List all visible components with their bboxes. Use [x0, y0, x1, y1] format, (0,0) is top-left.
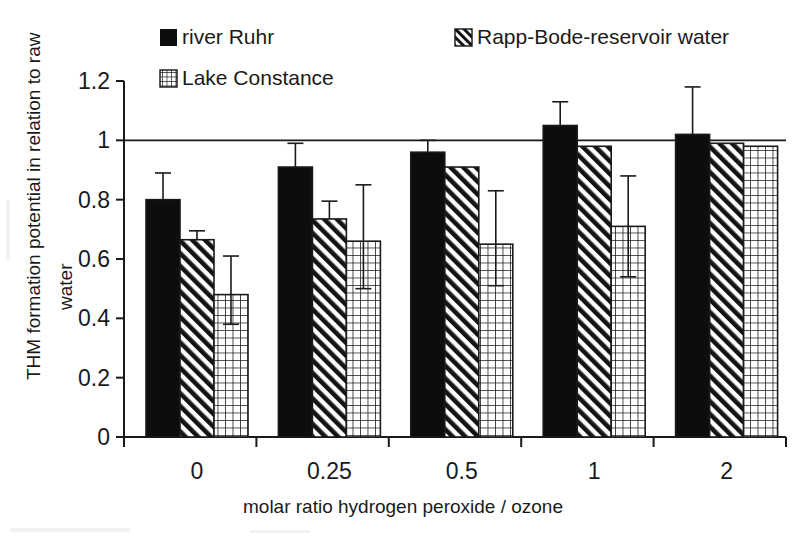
- x-tick-label: 0: [191, 458, 204, 484]
- x-tick-label: 1: [588, 458, 601, 484]
- diagonal-hatch-swatch: [455, 29, 472, 46]
- y-tick-label: 0.2: [78, 365, 110, 391]
- bar-solid-black: [543, 126, 577, 438]
- legend-entry-rapp-bode: Rapp-Bode-reservoir water: [455, 25, 729, 48]
- cross-grid-swatch: [160, 70, 177, 87]
- y-tick-label: 0: [97, 424, 110, 450]
- bar-diagonal-hatch: [180, 240, 214, 437]
- y-axis-title-wrap: water: [55, 263, 76, 311]
- chart-figure: river Ruhr Rapp-Bode-reservoir water Lak…: [0, 0, 806, 543]
- x-tick-label: 2: [720, 458, 733, 484]
- bar-solid-black: [278, 167, 312, 437]
- bar-diagonal-hatch: [577, 146, 611, 437]
- y-tick-label: 0.4: [78, 305, 110, 331]
- bar-cross-grid: [744, 146, 778, 437]
- bar-solid-black: [411, 152, 445, 437]
- bar-diagonal-hatch: [710, 143, 744, 437]
- y-tick-label: 0.8: [78, 187, 110, 213]
- bar-solid-black: [676, 134, 710, 437]
- legend-label-rapp-bode: Rapp-Bode-reservoir water: [477, 25, 729, 48]
- bar-solid-black: [146, 200, 180, 437]
- legend-entry-lake-constance: Lake Constance: [160, 66, 334, 89]
- solid-black-swatch: [160, 29, 177, 46]
- bar-diagonal-hatch: [445, 167, 479, 437]
- y-tick-label: 0.6: [78, 246, 110, 272]
- x-axis-title: molar ratio hydrogen peroxide / ozone: [243, 496, 563, 517]
- legend-label-lake-constance: Lake Constance: [182, 66, 334, 89]
- y-axis-title: THM formation potential in relation to r…: [23, 32, 44, 380]
- x-tick-label: 0.5: [446, 458, 478, 484]
- y-tick-label: 1.2: [78, 68, 110, 94]
- x-tick-label: 0.25: [307, 458, 352, 484]
- bar-diagonal-hatch: [312, 219, 346, 437]
- y-tick-label: 1: [97, 127, 110, 153]
- legend-label-river-ruhr: river Ruhr: [182, 25, 274, 48]
- bar-chart: river Ruhr Rapp-Bode-reservoir water Lak…: [0, 0, 806, 543]
